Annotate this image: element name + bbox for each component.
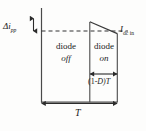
diode-off-word2: off — [44, 54, 88, 63]
dc-input-current-label: Idc in — [120, 25, 134, 36]
current-decay-ramp — [90, 22, 118, 34]
off-time-label: (1-D)T — [88, 78, 110, 86]
diode-on-word1: diode — [94, 41, 114, 51]
dc-current-subscript: dc in — [123, 30, 134, 36]
ripple-symbol: Δi — [3, 21, 11, 31]
diode-off-word1: diode — [56, 41, 76, 51]
ripple-amplitude-label: Δipp — [3, 22, 16, 33]
diode-on-word2: on — [91, 54, 117, 63]
off-time-prefix: (1- — [88, 77, 97, 86]
off-time-suffix: )T — [103, 77, 110, 86]
diode-on-region-label: diode on — [91, 42, 117, 63]
ripple-subscript: pp — [11, 27, 17, 33]
period-label: T — [75, 108, 81, 118]
waveform-drawing — [0, 0, 146, 131]
diode-current-waveform-figure: Δipp Idc in diode off diode on (1-D)T T — [0, 0, 146, 131]
diode-off-region-label: diode off — [44, 42, 88, 63]
